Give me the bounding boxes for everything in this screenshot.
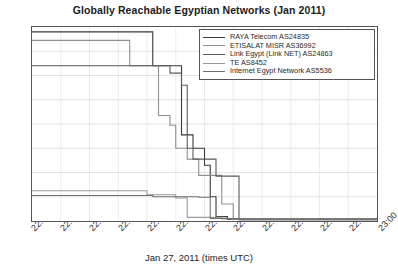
chart-title: Globally Reachable Egyptian Networks (Ja… xyxy=(0,4,398,16)
x-axis-title: Jan 27, 2011 (times UTC) xyxy=(0,252,398,263)
legend-item[interactable]: Internet Egypt Network AS5536 xyxy=(203,67,370,76)
x-tick-label: 23:00 xyxy=(376,210,398,233)
legend-item[interactable]: Link Egypt (Link NET) AS24863 xyxy=(203,50,370,59)
chart-container: Globally Reachable Egyptian Networks (Ja… xyxy=(0,0,398,275)
legend-label: Internet Egypt Network AS5536 xyxy=(230,67,332,76)
legend-color-swatch xyxy=(203,54,225,55)
legend-color-swatch xyxy=(203,71,225,72)
series-line xyxy=(32,191,377,219)
series-line xyxy=(32,196,377,220)
legend-color-swatch xyxy=(203,37,225,38)
legend-color-swatch xyxy=(203,63,225,64)
chart-legend: RAYA Telecom AS24835ETISALAT MISR AS3699… xyxy=(199,29,375,80)
legend-color-swatch xyxy=(203,45,225,46)
